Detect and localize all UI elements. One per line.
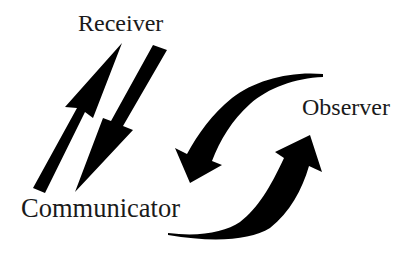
arrow-communicator-to-receiver — [33, 43, 122, 193]
arrow-receiver-to-communicator — [75, 45, 167, 192]
communication-diagram: Receiver Communicator Observer — [0, 0, 416, 259]
receiver-label: Receiver — [78, 11, 163, 35]
observer-label: Observer — [302, 95, 390, 119]
communicator-label: Communicator — [21, 195, 180, 222]
